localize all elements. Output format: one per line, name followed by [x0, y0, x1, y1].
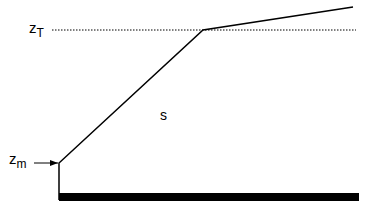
- label-z-m-sub: m: [17, 157, 27, 171]
- label-z-m: zm: [9, 150, 27, 171]
- label-region-s: s: [160, 107, 167, 123]
- label-z-top-sub: T: [37, 26, 45, 40]
- label-z-top: zT: [29, 19, 45, 40]
- label-z-m-main: z: [9, 150, 17, 167]
- diagram-canvas: zT zm s: [0, 0, 368, 212]
- profile-line: [59, 7, 353, 200]
- label-z-top-main: z: [29, 19, 37, 36]
- ground-bar: [59, 193, 359, 201]
